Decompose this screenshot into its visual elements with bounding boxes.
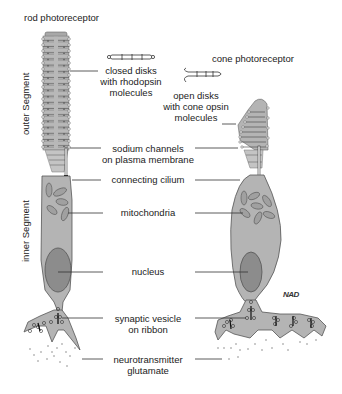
cone-outer-segment [238, 99, 269, 168]
rod-synaptic-terminal [24, 310, 80, 350]
label-nucleus: nucleus [98, 266, 198, 277]
rod-nucleus [45, 248, 71, 292]
label-open-disks: open disks with cone opsin molecules [160, 90, 232, 123]
artist-signature: NAD [283, 290, 299, 299]
open-disk-icon [184, 68, 221, 82]
label-sodium-channels: sodium channels on plasma membrane [98, 143, 198, 165]
label-connecting-cilium: connecting cilium [98, 174, 198, 185]
rod-title: rod photoreceptor [24, 12, 99, 23]
outer-segment-label: outer Segment [20, 73, 31, 135]
label-mitochondria: mitochondria [98, 207, 198, 218]
label-closed-disks: closed disks with rhodopsin molecules [99, 65, 163, 98]
closed-disk-icon [107, 54, 154, 60]
inner-segment-label: inner Segment [20, 200, 31, 262]
cone-title: cone photoreceptor [212, 53, 294, 64]
label-neurotransmitter: neurotransmitter glutamate [98, 354, 198, 376]
cone-synaptic-pedicle [215, 300, 326, 340]
label-synaptic-vesicle: synaptic vesicle on ribbon [98, 313, 198, 335]
